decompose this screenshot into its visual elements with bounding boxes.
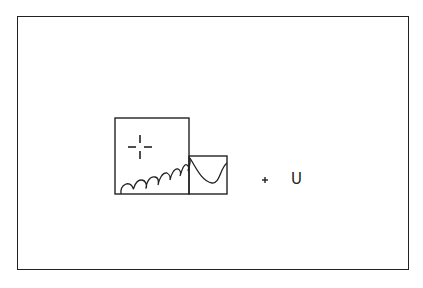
plus-icon xyxy=(262,177,268,183)
crosshair-icon xyxy=(128,135,152,159)
small-box xyxy=(189,156,227,194)
wave-curve xyxy=(190,158,227,183)
u-label: U xyxy=(291,172,302,187)
large-box xyxy=(115,118,189,194)
coil-curve xyxy=(121,158,190,194)
diagram-canvas xyxy=(0,0,423,288)
